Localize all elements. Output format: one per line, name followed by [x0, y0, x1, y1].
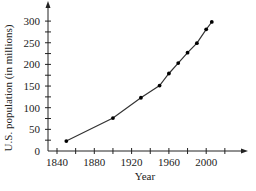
y-tick-label: 250: [24, 37, 41, 49]
x-tick-label: 1840: [46, 156, 69, 168]
x-axis-title: Year: [135, 170, 156, 182]
y-tick-label: 300: [24, 15, 41, 27]
y-tick-label: 200: [24, 58, 41, 70]
data-point: [176, 61, 180, 65]
data-point: [139, 96, 143, 100]
x-axis: 18401880192019602000: [46, 148, 248, 168]
data-point: [64, 139, 68, 143]
y-axis-arrow-icon: [46, 1, 51, 8]
population-line-chart: 050100150200250300 18401880192019602000 …: [0, 0, 256, 191]
y-tick-label: 0: [35, 145, 41, 157]
data-point: [210, 20, 214, 24]
data-point: [167, 72, 171, 76]
y-tick-label: 50: [29, 123, 41, 135]
y-axis: 050100150200250300: [24, 1, 52, 157]
data-point: [186, 51, 190, 55]
series-line: [66, 22, 212, 141]
x-tick-label: 1880: [83, 156, 106, 168]
data-series: [64, 20, 213, 143]
data-point: [204, 27, 208, 31]
x-tick-label: 2000: [195, 156, 218, 168]
data-point: [158, 84, 162, 88]
y-tick-label: 100: [24, 102, 41, 114]
y-tick-label: 150: [24, 80, 41, 92]
data-point: [195, 41, 199, 45]
x-axis-arrow-icon: [241, 149, 248, 154]
x-tick-label: 1920: [121, 156, 144, 168]
data-point: [111, 116, 115, 120]
x-tick-label: 1960: [158, 156, 181, 168]
y-axis-title: U.S. population (in millions): [2, 24, 15, 151]
